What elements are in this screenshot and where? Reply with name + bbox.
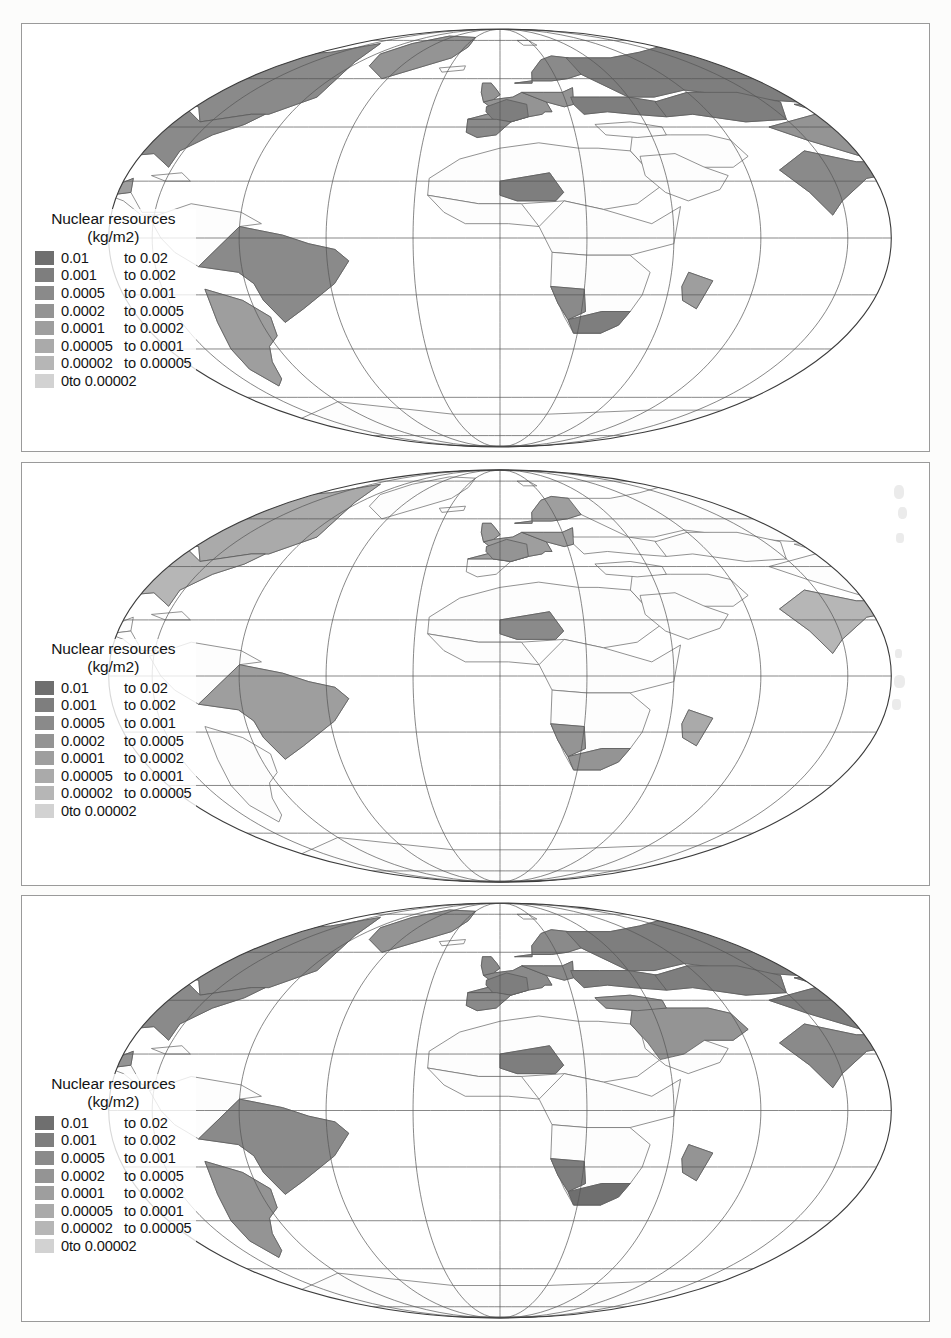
legend-label: 0.001to0.002 [61,697,176,713]
legend-high-value: 0.00002 [85,373,137,389]
legend-connector: to [124,680,136,696]
legend-row: 0.00002to0.00005 [35,785,192,803]
legend-swatch [35,1133,54,1147]
legend-high-value: 0.0002 [140,1185,184,1201]
land-alaska [70,930,189,955]
legend-low-value: 0.001 [61,267,124,283]
legend-swatch [35,1151,54,1165]
legend-connector: to [124,733,136,749]
legend-row: 0.0001to0.0002 [35,1184,192,1202]
legend-high-value: 0.0002 [140,320,184,336]
legend-row: 0.0002to0.0005 [35,302,192,320]
scan-artifact [892,699,901,710]
legend-row: 0.00002to0.00005 [35,355,192,373]
legend-title-line1: Nuclear resources [51,1075,175,1092]
legend-swatch [35,786,54,800]
region-mexico [70,1021,133,1068]
region-canada [70,56,189,81]
graticule [70,903,930,1318]
map-legend-1: Nuclear resources (kg/m2) 0.01to0.020.00… [31,209,196,392]
legend-high-value: 0.0005 [140,1168,184,1184]
legend-low-value: 0 [61,1238,69,1254]
legend-high-value: 0.00002 [85,1238,137,1254]
legend-low-value: 0.0002 [61,1168,124,1184]
legend-low-value: 0.0005 [61,715,124,731]
legend-high-value: 0.001 [140,285,176,301]
legend-label: 0.00002to0.00005 [61,785,192,801]
legend-row: 0.01to0.02 [35,1114,192,1132]
legend-label: 0.0005to0.001 [61,715,176,731]
legend-class-list: 0.01to0.020.001to0.0020.0005to0.0010.000… [35,1114,192,1255]
land-indonesia [912,224,930,270]
map-legend-3: Nuclear resources (kg/m2) 0.01to0.020.00… [31,1074,196,1257]
legend-connector: to [124,1115,136,1131]
legend-label: 0.00002to0.00005 [61,1220,192,1236]
legend-connector: to [124,303,136,319]
legend-high-value: 0.002 [140,697,176,713]
legend-row: 0.00002to0.00005 [35,1220,192,1238]
legend-high-value: 0.00005 [140,355,192,371]
legend-connector: to [69,803,81,819]
legend-title: Nuclear resources (kg/m2) [35,210,192,245]
legend-row: 0.0001to0.0002 [35,319,192,337]
legend-connector: to [124,785,136,801]
legend-row: 0.0002to0.0005 [35,732,192,750]
legend-connector: to [124,1168,136,1184]
legend-row: 0to0.00002 [35,802,192,820]
legend-label: 0.001to0.002 [61,1132,176,1148]
legend-high-value: 0.001 [140,1150,176,1166]
legend-connector: to [69,1238,81,1254]
region-indonesia [912,662,930,707]
legend-label: 0.00005to0.0001 [61,768,184,784]
legend-high-value: 0.0002 [140,750,184,766]
legend-title-line1: Nuclear resources [51,210,175,227]
legend-swatch [35,356,54,370]
legend-connector: to [124,285,136,301]
legend-row: 0.00005to0.0001 [35,337,192,355]
scan-artifact [894,485,904,499]
legend-row: 0.0005to0.001 [35,714,192,732]
legend-title-line1: Nuclear resources [51,640,175,657]
legend-swatch [35,1221,54,1235]
land-indonesia [912,1096,930,1141]
legend-swatch [35,1186,54,1200]
legend-swatch [35,321,54,335]
world-map-1 [70,23,930,452]
legend-row: 0.0005to0.001 [35,1149,192,1167]
legend-connector: to [124,1132,136,1148]
legend-swatch [35,251,54,265]
legend-label: 0.00002to0.00005 [61,355,192,371]
legend-row: 0.0001to0.0002 [35,749,192,767]
legend-label: 0.01to0.02 [61,1115,168,1131]
legend-high-value: 0.02 [140,680,168,696]
legend-swatch [35,681,54,695]
legend-high-value: 0.001 [140,715,176,731]
legend-row: 0to0.00002 [35,1237,192,1255]
scan-artifact [894,675,905,688]
legend-low-value: 0 [61,803,69,819]
region-mexico [70,148,133,195]
legend-low-value: 0.001 [61,697,124,713]
world-map-2 [70,462,930,886]
legend-high-value: 0.0001 [140,338,184,354]
legend-connector: to [69,373,81,389]
legend-high-value: 0.00002 [85,803,137,819]
map-panel-3: Nuclear resources (kg/m2) 0.01to0.020.00… [21,895,930,1322]
scan-artifact [896,533,904,543]
legend-row: 0.001to0.002 [35,1132,192,1150]
legend-low-value: 0 [61,373,69,389]
legend-high-value: 0.02 [140,1115,168,1131]
legend-low-value: 0.0005 [61,1150,124,1166]
legend-swatch [35,339,54,353]
legend-high-value: 0.002 [140,1132,176,1148]
legend-swatch [35,751,54,765]
map-panel-1: Nuclear resources (kg/m2) 0.01to0.020.00… [21,23,930,452]
legend-low-value: 0.0002 [61,733,124,749]
legend-class-list: 0.01to0.020.001to0.0020.0005to0.0010.000… [35,679,192,820]
land-alaska [70,496,189,521]
legend-low-value: 0.00002 [61,355,124,371]
legend-low-value: 0.00005 [61,768,124,784]
legend-row: 0.01to0.02 [35,679,192,697]
legend-swatch [35,1116,54,1130]
legend-high-value: 0.0001 [140,768,184,784]
